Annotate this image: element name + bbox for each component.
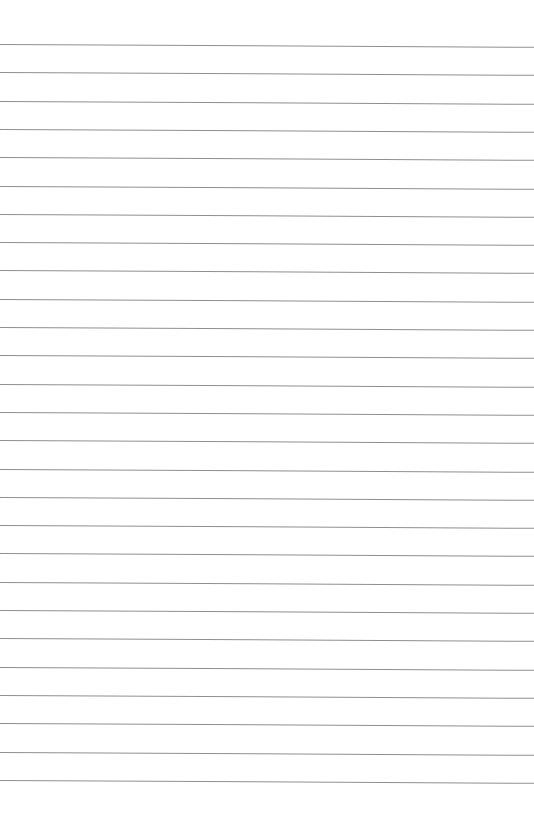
ruled-line	[0, 638, 534, 642]
ruled-line	[0, 780, 534, 784]
ruled-line	[0, 469, 534, 473]
ruled-line	[0, 440, 534, 444]
ruled-line	[0, 157, 534, 161]
ruled-line	[0, 667, 534, 671]
ruled-line	[0, 582, 534, 586]
ruled-line	[0, 497, 534, 501]
ruled-line	[0, 355, 534, 359]
ruled-line	[0, 553, 534, 557]
ruled-line	[0, 723, 534, 727]
lined-paper-page	[0, 0, 534, 836]
ruled-line	[0, 327, 534, 331]
ruled-line	[0, 610, 534, 614]
ruled-line	[0, 129, 534, 133]
ruled-line	[0, 186, 534, 190]
ruled-line	[0, 44, 534, 48]
ruled-line	[0, 384, 534, 388]
ruled-line	[0, 695, 534, 699]
ruled-line	[0, 214, 534, 218]
ruled-line	[0, 299, 534, 303]
ruled-line	[0, 72, 534, 76]
ruled-line	[0, 525, 534, 529]
ruled-line	[0, 242, 534, 246]
ruled-line	[0, 412, 534, 416]
ruled-line	[0, 752, 534, 756]
ruled-line	[0, 101, 534, 105]
ruled-line	[0, 270, 534, 274]
